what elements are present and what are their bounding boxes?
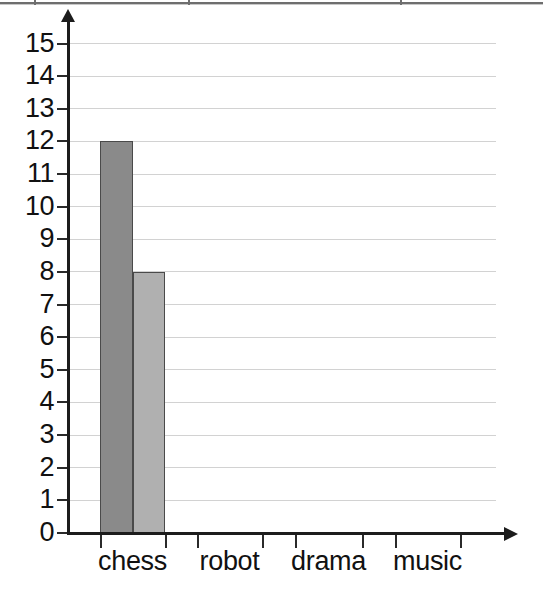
arrow-right-icon	[504, 527, 518, 541]
x-axis-category-label: music	[375, 546, 480, 576]
y-axis-tick-label: 11	[27, 160, 54, 187]
table-cell-divider	[188, 0, 190, 5]
x-axis-category-label: robot	[177, 546, 282, 576]
x-axis-category-label: drama	[275, 546, 382, 576]
y-axis-tick-label: 2	[39, 454, 54, 481]
x-axis-category-label: chess	[80, 546, 185, 576]
y-axis-tick-label: 9	[39, 225, 54, 252]
y-axis-tick-label: 10	[25, 193, 54, 220]
y-axis-tick-label: 1	[39, 486, 54, 513]
gridline	[68, 108, 496, 109]
y-axis-tick-label: 3	[39, 421, 54, 448]
y-axis-tick-label: 14	[25, 62, 54, 89]
bar-chart: 0123456789101112131415 chessrobotdramamu…	[0, 0, 543, 597]
y-axis-tick-label: 12	[25, 127, 54, 154]
gridline	[68, 43, 496, 44]
y-axis-tick-label: 0	[39, 519, 54, 546]
y-axis-tick-label: 8	[39, 258, 54, 285]
y-axis-tick-label: 5	[39, 356, 54, 383]
gridline	[68, 76, 496, 77]
y-axis-line	[67, 18, 70, 535]
y-axis-tick-label: 7	[39, 291, 54, 318]
x-axis-line	[68, 532, 508, 535]
y-axis-tick-label: 13	[25, 95, 54, 122]
table-cell-divider	[400, 0, 402, 5]
y-axis-tick-label: 6	[39, 323, 54, 350]
bar	[133, 272, 166, 533]
y-axis-tick-label: 4	[39, 388, 54, 415]
arrow-up-icon	[61, 9, 75, 22]
bar	[100, 141, 133, 533]
y-axis-tick-label: 15	[25, 30, 54, 57]
table-cell-divider	[34, 0, 36, 5]
